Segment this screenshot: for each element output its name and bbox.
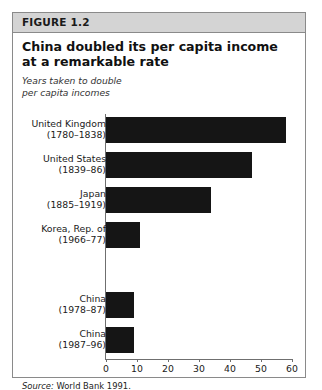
y-label-period: (1966–77)	[41, 235, 106, 246]
y-label-country: United Kingdom	[31, 118, 106, 129]
x-tick-60	[292, 359, 293, 362]
y-axis-label-3: Japan(1885–1919)	[47, 189, 106, 210]
y-axis-label-1: United Kingdom(1780–1838)	[31, 119, 106, 140]
y-label-period: (1885–1919)	[47, 200, 106, 211]
y-axis-label-2: United States(1839–86)	[43, 154, 106, 175]
source-prefix: Source:	[22, 381, 54, 390]
x-tick-20	[168, 359, 169, 362]
y-label-period: (1780–1838)	[31, 130, 106, 141]
y-label-period: (1987–96)	[59, 340, 106, 351]
y-axis-label-5: China(1978–87)	[59, 294, 106, 315]
x-tick-30	[199, 359, 200, 362]
y-label-country: China	[79, 328, 106, 339]
figure-container: FIGURE 1.2 China doubled its per capita …	[12, 12, 306, 378]
x-tick-40	[230, 359, 231, 362]
x-tick-label-10: 10	[125, 363, 149, 374]
x-tick-label-30: 30	[187, 363, 211, 374]
source-note: Source: World Bank 1991.	[22, 381, 131, 390]
x-tick-label-0: 0	[94, 363, 118, 374]
y-label-country: United States	[43, 153, 106, 164]
y-axis-label-6: China(1987–96)	[59, 329, 106, 350]
x-tick-10	[137, 359, 138, 362]
bar-3	[106, 187, 211, 213]
y-label-period: (1978–87)	[59, 305, 106, 316]
x-tick-label-20: 20	[156, 363, 180, 374]
y-label-period: (1839–86)	[43, 165, 106, 176]
bar-1	[106, 117, 286, 143]
x-tick-50	[261, 359, 262, 362]
bar-5	[106, 292, 134, 318]
bar-6	[106, 327, 134, 353]
x-tick-label-60: 60	[280, 363, 304, 374]
x-tick-0	[106, 359, 107, 362]
y-label-country: Japan	[80, 188, 106, 199]
bar-2	[106, 152, 252, 178]
y-axis-label-4: Korea, Rep. of(1966–77)	[41, 224, 106, 245]
y-label-country: Korea, Rep. of	[41, 223, 106, 234]
x-tick-label-50: 50	[249, 363, 273, 374]
source-text: World Bank 1991.	[56, 381, 130, 390]
x-tick-label-40: 40	[218, 363, 242, 374]
bar-4	[106, 222, 140, 248]
y-label-country: China	[79, 293, 106, 304]
bar-chart-plot-area: United Kingdom(1780–1838)United States(1…	[13, 13, 307, 379]
